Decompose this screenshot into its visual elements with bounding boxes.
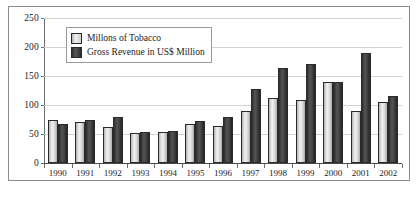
- bar: [361, 53, 371, 163]
- bar: [75, 122, 85, 163]
- x-tick-label: 1993: [131, 168, 149, 178]
- x-tick-label: 1998: [269, 168, 287, 178]
- y-tick-label: 100: [24, 100, 39, 110]
- bar-group: [319, 18, 347, 163]
- legend-swatch-icon: [71, 33, 82, 44]
- bar: [168, 131, 178, 163]
- legend-item-revenue: Gross Revenue in US$ Million: [71, 45, 205, 59]
- bar: [113, 117, 123, 163]
- bar: [378, 102, 388, 163]
- bar: [140, 132, 150, 163]
- chart-legend: Millons of Tobacco Gross Revenue in US$ …: [66, 27, 212, 63]
- bar: [85, 120, 95, 164]
- x-tick-label: 2001: [352, 168, 370, 178]
- x-tick-label: 1994: [159, 168, 177, 178]
- bar: [158, 132, 168, 163]
- x-tick-label: 2002: [379, 168, 397, 178]
- bar: [213, 126, 223, 163]
- bar: [103, 127, 113, 163]
- bar-group: [209, 18, 237, 163]
- y-tick-label: 0: [34, 158, 39, 168]
- bar: [333, 82, 343, 163]
- bar: [251, 89, 261, 163]
- bar: [323, 82, 333, 163]
- x-tick-label: 1992: [104, 168, 122, 178]
- x-tick-label: 1995: [186, 168, 204, 178]
- x-tick-label: 1991: [76, 168, 94, 178]
- x-axis-labels: 1990199119921993199419951996199719981999…: [44, 168, 402, 182]
- legend-label: Gross Revenue in US$ Million: [87, 47, 205, 57]
- bar-group: [374, 18, 402, 163]
- y-tick-label: 200: [24, 42, 39, 52]
- bar: [306, 64, 316, 163]
- bar: [48, 120, 58, 164]
- x-tick-label: 1996: [214, 168, 232, 178]
- bar: [195, 121, 205, 163]
- x-tick-label: 2000: [324, 168, 342, 178]
- x-tick-label: 1997: [242, 168, 260, 178]
- bar: [278, 68, 288, 163]
- legend-item-tobacco: Millons of Tobacco: [71, 31, 205, 45]
- bar: [130, 133, 140, 163]
- y-tick-label: 150: [24, 71, 39, 81]
- bar: [388, 96, 398, 163]
- bar-group: [237, 18, 265, 163]
- chart-figure: 250 200 150 100 50 0 1990199119921993199…: [0, 0, 418, 199]
- bar: [241, 111, 251, 163]
- x-tick-label: 1999: [297, 168, 315, 178]
- x-tick-label: 1990: [49, 168, 67, 178]
- bar-group: [347, 18, 375, 163]
- bar: [351, 111, 361, 163]
- bar: [268, 98, 278, 163]
- bar: [296, 100, 306, 163]
- bar: [223, 117, 233, 163]
- x-tick-mark: [402, 164, 403, 168]
- bar-group: [264, 18, 292, 163]
- bar: [58, 124, 68, 163]
- y-tick-label: 250: [24, 13, 39, 23]
- legend-label: Millons of Tobacco: [87, 33, 161, 43]
- bar-group: [292, 18, 320, 163]
- y-tick-label: 50: [29, 129, 39, 139]
- legend-swatch-icon: [71, 47, 82, 58]
- bar: [185, 124, 195, 163]
- y-axis-labels: 250 200 150 100 50 0: [0, 0, 39, 199]
